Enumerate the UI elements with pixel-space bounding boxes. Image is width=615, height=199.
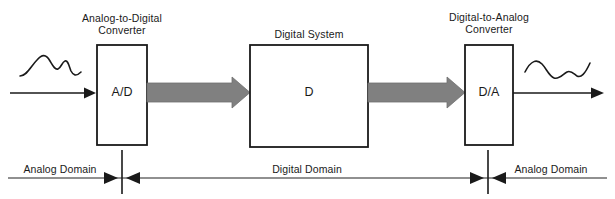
- domain-divider-left: [104, 150, 140, 194]
- digital-to-dac-arrow: [368, 77, 465, 108]
- output-waveform-icon: [525, 61, 590, 78]
- output-arrow: [513, 88, 604, 99]
- domain-label-analog-left: Analog Domain: [23, 163, 96, 175]
- adc-caption-line1: Analog-to-Digital: [82, 12, 162, 24]
- digital-system-caption: Digital System: [274, 28, 343, 40]
- diagram-canvas: Analog-to-Digital Converter Digital Syst…: [0, 0, 615, 199]
- digital-system-inner-label: D: [304, 85, 313, 99]
- adc-inner-label: A/D: [112, 85, 133, 99]
- domain-divider-right: [470, 150, 506, 194]
- dac-caption: Digital-to-Analog Converter: [449, 11, 529, 35]
- input-waveform-icon: [20, 56, 81, 76]
- dac-inner-label: D/A: [479, 85, 500, 99]
- adc-caption: Analog-to-Digital Converter: [82, 12, 162, 36]
- input-arrow: [10, 88, 96, 99]
- adc-to-digital-arrow: [147, 77, 250, 108]
- domain-label-digital: Digital Domain: [272, 163, 342, 175]
- dac-caption-line2: Converter: [449, 23, 529, 35]
- domain-label-analog-right: Analog Domain: [514, 163, 587, 175]
- adc-caption-line2: Converter: [82, 24, 162, 36]
- digital-system-caption-line1: Digital System: [274, 28, 343, 40]
- dac-caption-line1: Digital-to-Analog: [449, 11, 529, 23]
